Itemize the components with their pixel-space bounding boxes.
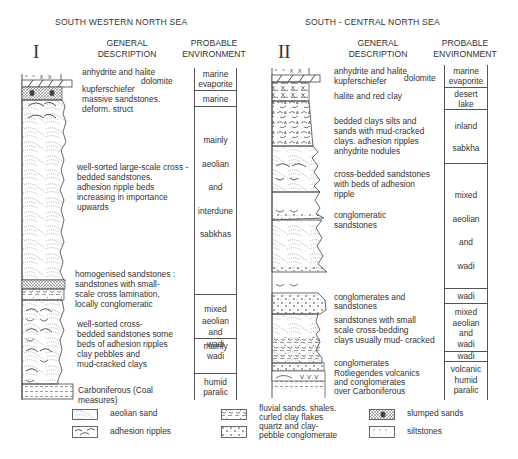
environment-cell: inland sabkha <box>445 109 487 164</box>
description-line: anhydrite nodules <box>334 147 400 157</box>
adhesion-ripples-pattern-icon <box>72 426 98 438</box>
environment-label: wadi <box>457 339 474 350</box>
environment-label: paralic <box>454 385 479 396</box>
environment-label: wadi <box>457 291 474 302</box>
environment-cell: volcanic humid paralic <box>445 361 487 398</box>
description-line: dolomite <box>404 74 436 84</box>
environment-column-II: marine evaporite desert lake inland sabk… <box>444 65 488 400</box>
environment-cell: mixed aeolian and wadi <box>445 303 487 352</box>
environment-label: wadi <box>457 352 474 361</box>
environment-cell: desert lake <box>445 87 487 110</box>
conglomerate-pattern-icon <box>221 426 247 438</box>
environment-label: desert <box>454 89 477 100</box>
description-line: halite and red clay <box>334 92 402 102</box>
environment-label: aeolian <box>452 318 479 329</box>
legend-label: adhesion ripples <box>110 427 171 437</box>
environment-label: marine <box>453 66 479 77</box>
legend-label: pebble conglomerate <box>259 431 337 441</box>
environment-label: wadi <box>457 261 474 272</box>
environment-label: inland <box>455 121 477 132</box>
environment-label: humid <box>455 375 478 386</box>
legend-label: slumped sands <box>407 409 463 419</box>
lithology-column-II: ^ ^ X X V.V.V <box>0 0 518 410</box>
description-line: sandstones <box>334 221 377 231</box>
environment-label: mixed <box>455 190 477 201</box>
environment-label: and <box>459 237 473 248</box>
environment-label: aeolian <box>452 214 479 225</box>
legend-label: siltstones <box>407 427 442 437</box>
description-line: sandstones <box>334 302 377 312</box>
environment-label: and <box>459 328 473 339</box>
fluvial-sands-pattern-icon <box>221 409 247 420</box>
environment-cell: wadi <box>445 288 487 304</box>
description-line: clays usually mud- cracked <box>334 336 435 346</box>
description-line: kupferschiefer <box>334 77 387 87</box>
description-line: ripple <box>334 190 354 200</box>
aeolian-sand-pattern-icon <box>72 409 98 420</box>
legend-label: aeolian sand <box>110 409 158 419</box>
svg-text:^ ^ X X: ^ ^ X X <box>275 68 303 74</box>
environment-label: sabkha <box>452 143 479 154</box>
environment-label: mixed <box>455 307 477 318</box>
environment-cell: marine evaporite <box>445 65 487 87</box>
svg-text:V.V.V: V.V.V <box>300 374 319 380</box>
environment-label: evaporite <box>449 76 483 87</box>
description-line: over Carboniferous <box>334 387 405 397</box>
environment-label: volcanic <box>451 364 481 375</box>
environment-label: lake <box>458 99 473 110</box>
slumped-sands-pattern-icon <box>369 409 395 420</box>
siltstones-pattern-icon <box>369 426 395 438</box>
